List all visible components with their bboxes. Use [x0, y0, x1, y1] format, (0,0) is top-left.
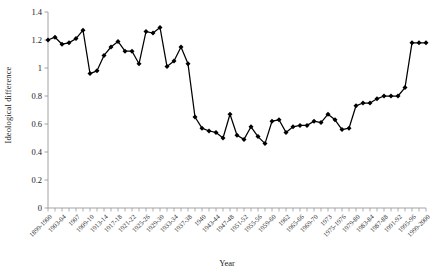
x-axis-title: Year [0, 258, 434, 268]
data-point [137, 61, 142, 66]
data-point [179, 45, 184, 50]
data-point [130, 49, 135, 54]
y-axis-tick-label: 0.2 [16, 175, 42, 185]
data-point [228, 112, 233, 117]
y-axis-tick-label: 0 [16, 203, 42, 213]
y-axis-tick-label: 0.4 [16, 147, 42, 157]
data-point [95, 68, 100, 73]
axes [45, 12, 427, 212]
x-axis-title-text: Year [219, 258, 235, 268]
data-point [270, 119, 275, 124]
data-point [277, 117, 282, 122]
data-series [46, 25, 429, 146]
data-point [424, 40, 429, 45]
y-axis-tick-label: 1.4 [16, 7, 42, 17]
data-point [347, 126, 352, 131]
data-point [417, 40, 422, 45]
y-axis-tick-label: 1 [16, 63, 42, 73]
y-axis-tick-label: 0.8 [16, 91, 42, 101]
data-point [186, 61, 191, 66]
data-point [382, 94, 387, 99]
y-axis-tick-label: 0.6 [16, 119, 42, 129]
data-point [207, 129, 212, 134]
data-point [144, 29, 149, 34]
data-point [389, 94, 394, 99]
data-point [46, 38, 51, 43]
data-point [88, 71, 93, 76]
data-point [298, 123, 303, 128]
data-point [361, 101, 366, 106]
chart-figure: Ideological difference 00.20.40.60.811.2… [0, 0, 434, 280]
data-point [410, 40, 415, 45]
y-axis-tick-label: 1.2 [16, 35, 42, 45]
data-point [354, 103, 359, 108]
